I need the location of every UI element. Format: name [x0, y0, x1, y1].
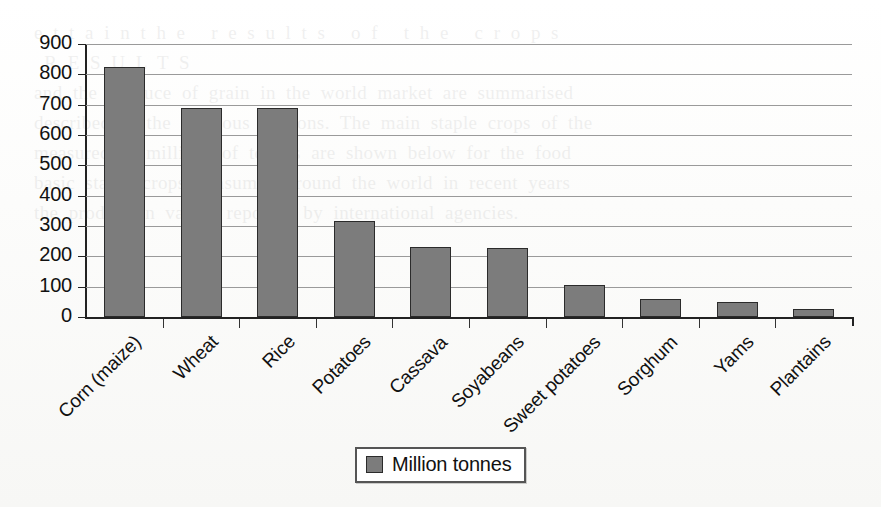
- chart-legend: Million tonnes: [355, 447, 526, 483]
- y-axis-tick: [78, 256, 85, 257]
- bar: [487, 248, 528, 317]
- y-axis-tick-label: 800: [0, 61, 72, 84]
- legend-label-million-tonnes: Million tonnes: [392, 453, 512, 476]
- x-axis-tick: [546, 319, 547, 328]
- y-axis-tick-label: 300: [0, 213, 72, 236]
- x-axis-label: Corn (maize): [54, 331, 146, 423]
- x-axis-label: Yams: [710, 331, 758, 379]
- y-axis-tick: [78, 74, 85, 75]
- y-axis-tick-label: 0: [0, 304, 72, 327]
- y-axis-tick-label: 100: [0, 274, 72, 297]
- bar: [334, 221, 375, 317]
- gridline: [86, 44, 852, 45]
- bar: [564, 285, 605, 317]
- gridline: [86, 105, 852, 106]
- y-axis-tick-label: 600: [0, 122, 72, 145]
- y-axis-tick-label: 700: [0, 92, 72, 115]
- y-axis-tick: [78, 287, 85, 288]
- x-axis-end-tick: [852, 317, 854, 326]
- x-axis-label: Wheat: [169, 331, 223, 385]
- x-axis-tick: [239, 319, 240, 328]
- bar: [793, 309, 834, 317]
- x-axis-tick: [163, 319, 164, 328]
- bar: [717, 302, 758, 317]
- bar-chart: 9008007006005004003002001000 Corn (maize…: [0, 0, 881, 507]
- x-axis-label: Cassava: [385, 331, 452, 398]
- y-axis-tick: [78, 44, 85, 45]
- x-axis-tick: [316, 319, 317, 328]
- x-axis-tick: [622, 319, 623, 328]
- y-axis-tick: [78, 226, 85, 227]
- y-axis-tick: [78, 165, 85, 166]
- bar: [410, 247, 451, 317]
- x-axis-tick: [775, 319, 776, 328]
- bar: [104, 67, 145, 317]
- y-axis-tick: [78, 196, 85, 197]
- x-axis-label: Potatoes: [308, 331, 375, 398]
- x-axis-tick: [392, 319, 393, 328]
- gridline: [86, 74, 852, 75]
- y-axis-tick: [78, 105, 85, 106]
- legend-swatch-million-tonnes: [366, 456, 383, 473]
- y-axis-tick-label: 500: [0, 152, 72, 175]
- x-axis-label: Plantains: [766, 331, 836, 401]
- y-axis-line: [85, 44, 87, 319]
- x-axis-label: Sorghum: [613, 331, 682, 400]
- bar: [640, 299, 681, 317]
- x-axis-label: Rice: [258, 331, 300, 373]
- x-axis-tick: [699, 319, 700, 328]
- x-axis-tick: [469, 319, 470, 328]
- y-axis-tick-label: 200: [0, 243, 72, 266]
- y-axis-tick-label: 400: [0, 183, 72, 206]
- y-axis-tick: [78, 317, 85, 318]
- y-axis-tick-label: 900: [0, 31, 72, 54]
- y-axis-tick: [78, 135, 85, 136]
- bar: [181, 108, 222, 317]
- x-axis-label: Soyabeans: [447, 331, 529, 413]
- bar: [257, 108, 298, 317]
